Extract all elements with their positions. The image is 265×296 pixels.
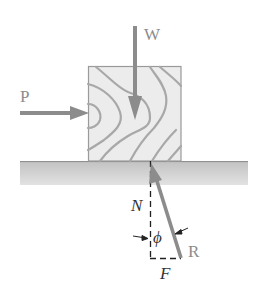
label-f: F [159,264,171,283]
label-p: P [20,87,29,106]
label-r: R [188,242,200,261]
ground-surface [20,161,248,185]
label-phi: ϕ [153,228,162,247]
label-w: W [144,25,161,44]
label-n: N [130,196,144,215]
force-p-arrow [20,106,89,120]
free-body-diagram: W P R ϕ N F [0,0,265,296]
